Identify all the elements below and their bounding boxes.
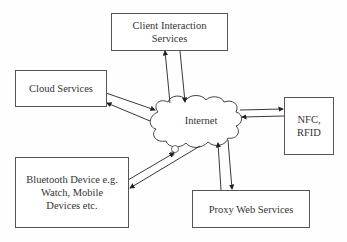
internet-label: Internet bbox=[176, 115, 226, 126]
node-bluetooth-device: Bluetooth Device e.g. Watch, Mobile Devi… bbox=[15, 157, 129, 228]
node-label: NFC, RFID bbox=[297, 113, 321, 139]
node-client-interaction-services: Client Interaction Services bbox=[111, 13, 228, 51]
node-label: Client Interaction Services bbox=[133, 19, 207, 45]
network-diagram: Internet Client Interaction Services Clo… bbox=[0, 0, 347, 242]
node-cloud-services: Cloud Services bbox=[15, 70, 107, 107]
node-proxy-web-services: Proxy Web Services bbox=[192, 190, 310, 228]
node-nfc-rfid: NFC, RFID bbox=[284, 97, 334, 155]
node-label: Proxy Web Services bbox=[209, 203, 294, 216]
node-label: Cloud Services bbox=[29, 82, 93, 95]
node-label: Bluetooth Device e.g. Watch, Mobile Devi… bbox=[26, 173, 118, 212]
